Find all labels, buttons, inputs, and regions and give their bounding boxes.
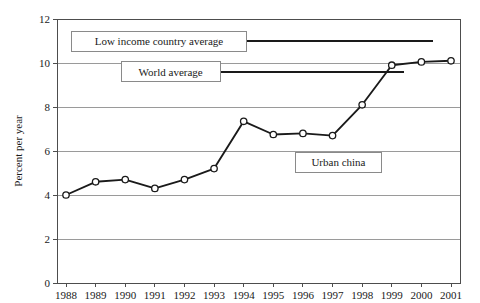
x-tick-label: 1989 [85,289,108,301]
x-tick-label: 1993 [203,289,226,301]
y-tick-label: 2 [45,233,51,245]
y-tick-label: 10 [39,57,51,69]
data-point [240,118,246,124]
grid-lines [57,19,460,239]
data-point [122,176,128,182]
y-axis-title: Percent per year [12,115,24,187]
x-tick-label: 1996 [292,289,315,301]
x-tick-label: 1998 [351,289,374,301]
x-tick-label: 2001 [440,289,462,301]
data-point [270,131,276,137]
y-tick-label: 12 [39,13,50,25]
x-tick-label: 1991 [144,289,166,301]
callout-low-income-country-average: Low income country average [71,31,246,51]
data-point [181,176,187,182]
chart-container: 024681012 198819891990199119921993199419… [0,0,480,303]
x-tick-label: 1999 [381,289,404,301]
callout-urban-china-label: Urban china [295,152,382,172]
x-tick-label: 2000 [410,289,433,301]
x-axis-ticks: 1988198919901991199219931994199519961997… [55,283,462,301]
x-tick-label: 1995 [262,289,285,301]
x-tick-label: 1994 [233,289,256,301]
x-tick-label: 1997 [322,289,345,301]
x-tick-label: 1988 [55,289,78,301]
data-point [211,165,217,171]
line-chart: 024681012 198819891990199119921993199419… [0,0,480,303]
x-tick-label: 1992 [173,289,195,301]
y-axis-ticks: 024681012 [39,13,57,289]
callout-world-average: World average [121,62,220,82]
data-point [300,130,306,136]
callout-label: World average [139,66,203,78]
data-point [418,59,424,65]
y-tick-label: 4 [45,189,51,201]
callout-label: Urban china [311,156,365,168]
reference-lines [220,41,433,72]
callout-label: Low income country average [95,35,224,47]
data-point [152,185,158,191]
data-point [329,132,335,138]
data-point [448,58,454,64]
data-point [63,192,69,198]
data-point [92,179,98,185]
x-tick-label: 1990 [114,289,137,301]
y-tick-label: 6 [45,145,51,157]
y-tick-label: 8 [45,101,51,113]
data-point [389,62,395,68]
y-tick-label: 0 [45,277,51,289]
data-point [359,102,365,108]
